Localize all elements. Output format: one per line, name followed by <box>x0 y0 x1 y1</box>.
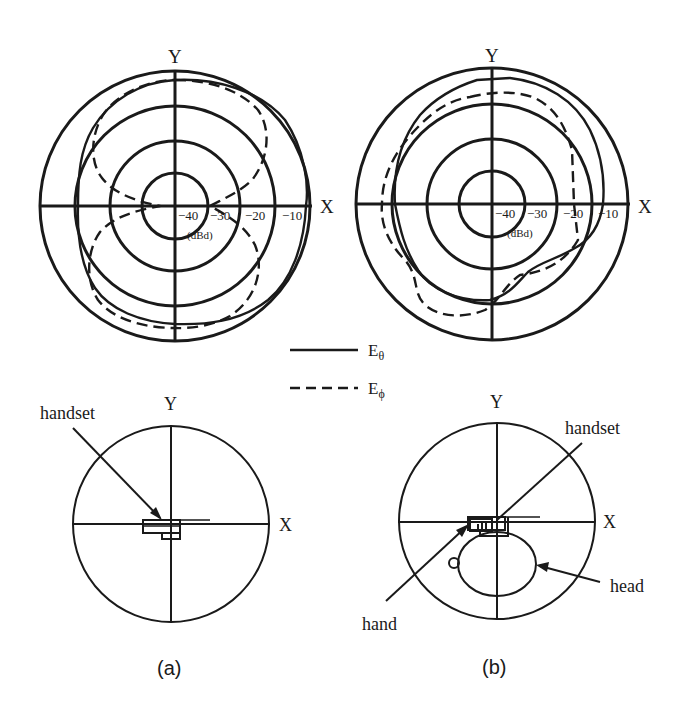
e-theta-curve-b <box>395 78 604 300</box>
setup-diagram-b: handset hand head Y X (b) <box>362 392 644 678</box>
tick-label-minus20-b: −20 <box>563 206 583 221</box>
tick-label-minus40-b: −40 <box>495 206 515 221</box>
head-pointer-arrow <box>540 566 600 582</box>
y-axis-label-b: Y <box>485 45 499 66</box>
handset-label-b: handset <box>565 418 620 438</box>
legend-label-e-theta: Eθ <box>368 341 384 363</box>
tick-label-minus30-a: −30 <box>210 208 230 223</box>
setup-y-label-b: Y <box>490 392 503 412</box>
handset-label-a: handset <box>40 403 95 423</box>
legend: Eθ Eϕ <box>290 341 385 401</box>
tick-label-minus40-a: −40 <box>178 208 198 223</box>
setup-diagram-a: handset Y X (a) <box>40 394 292 679</box>
caption-b: (b) <box>482 656 506 678</box>
caption-a: (a) <box>157 657 181 679</box>
polar-plot-b: −40 −30 −20 −10 (dBd) Y X <box>356 45 652 340</box>
unit-label-a: (dBd) <box>187 229 213 242</box>
tick-label-minus20-a: −20 <box>245 208 265 223</box>
handset-pointer-line-b <box>497 443 582 520</box>
arrowhead-icon <box>536 562 549 572</box>
hand-label: hand <box>362 614 397 634</box>
tick-label-minus30-b: −30 <box>527 206 547 221</box>
e-theta-curve-a <box>78 80 307 324</box>
y-axis-label-a: Y <box>168 46 182 67</box>
x-axis-label-a: X <box>320 196 334 217</box>
tick-label-minus10-b: −10 <box>598 206 618 221</box>
setup-y-label-a: Y <box>164 394 177 414</box>
setup-x-label-b: X <box>603 512 616 532</box>
polar-plot-a: −40 −30 −20 −10 (dBd) Y X <box>40 46 334 341</box>
x-axis-label-b: X <box>638 196 652 217</box>
figure-canvas: −40 −30 −20 −10 (dBd) Y X −40 −30 −20 −1… <box>0 0 693 712</box>
head-label: head <box>610 576 644 596</box>
legend-label-e-phi: Eϕ <box>368 379 385 401</box>
setup-x-label-a: X <box>279 515 292 535</box>
handset-icon-a <box>143 520 210 539</box>
tick-label-minus10-a: −10 <box>282 208 302 223</box>
unit-label-b: (dBd) <box>507 227 533 240</box>
